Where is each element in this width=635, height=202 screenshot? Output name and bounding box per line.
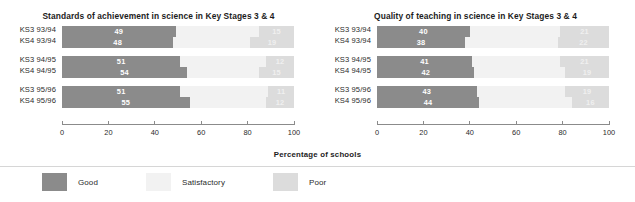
bar-row: KS4 94/954219 bbox=[377, 67, 609, 78]
bar-row: KS3 95/965111 bbox=[62, 86, 294, 97]
x-axis-tick-label: 0 bbox=[375, 128, 379, 137]
bar-segment-poor: 12 bbox=[266, 56, 294, 67]
bar-segment-poor: 15 bbox=[259, 67, 294, 78]
chart-title-standards: Standards of achievement in science in K… bbox=[0, 11, 317, 21]
x-axis-tick bbox=[154, 121, 155, 125]
x-axis-tick bbox=[247, 121, 248, 125]
x-axis-tick-label: 20 bbox=[104, 128, 112, 137]
bar-segment-poor: 21 bbox=[560, 26, 609, 37]
bar-segment-good: 55 bbox=[62, 97, 190, 108]
bar-row: KS3 93/944021 bbox=[377, 26, 609, 37]
x-axis-tick-label: 80 bbox=[243, 128, 251, 137]
bar-segment-good: 54 bbox=[62, 67, 187, 78]
plot-area-quality: KS3 93/944021KS4 93/943822KS3 94/954121K… bbox=[377, 26, 609, 125]
bar-segment-satisfactory bbox=[180, 86, 268, 97]
bar-segment-poor: 19 bbox=[565, 86, 609, 97]
bar-segment-satisfactory bbox=[474, 67, 564, 78]
bar-segment-satisfactory bbox=[472, 56, 560, 67]
bar-segment-good: 38 bbox=[377, 37, 465, 48]
bar-segment-good: 51 bbox=[62, 86, 180, 97]
plot-area-standards: KS3 93/944915KS4 93/944819KS3 94/955112K… bbox=[62, 26, 294, 125]
bar-segment-good: 51 bbox=[62, 56, 180, 67]
x-axis-tick-label: 60 bbox=[197, 128, 205, 137]
bar-row-label: KS4 93/94 bbox=[20, 36, 56, 45]
bar-segment-good: 48 bbox=[62, 37, 173, 48]
x-axis-tick bbox=[377, 121, 378, 125]
bar-row-label: KS3 93/94 bbox=[335, 25, 371, 34]
x-axis-tick-label: 40 bbox=[466, 128, 474, 137]
bar-row-label: KS4 93/94 bbox=[335, 36, 371, 45]
bar-segment-good: 42 bbox=[377, 67, 474, 78]
bar-segment-poor: 21 bbox=[560, 56, 609, 67]
bar-row-label: KS4 95/96 bbox=[20, 96, 56, 105]
bar-segment-satisfactory bbox=[470, 26, 560, 37]
x-axis-tick bbox=[108, 121, 109, 125]
bar-segment-poor: 12 bbox=[266, 97, 294, 108]
bar-row: KS4 94/955415 bbox=[62, 67, 294, 78]
legend-item-good: Good bbox=[42, 173, 98, 191]
x-axis-tick-label: 100 bbox=[603, 128, 615, 137]
bar-segment-satisfactory bbox=[479, 97, 572, 108]
x-axis-tick-label: 100 bbox=[288, 128, 300, 137]
legend-item-satisfactory: Satisfactory bbox=[146, 173, 225, 191]
x-axis-tick bbox=[423, 121, 424, 125]
x-axis-tick bbox=[562, 121, 563, 125]
bar-segment-poor: 15 bbox=[259, 26, 294, 37]
bar-row: KS3 94/954121 bbox=[377, 56, 609, 67]
bar-segment-poor: 19 bbox=[250, 37, 294, 48]
legend-divider bbox=[0, 166, 635, 167]
bar-segment-satisfactory bbox=[190, 97, 267, 108]
bar-segment-good: 49 bbox=[62, 26, 176, 37]
x-axis-tick bbox=[294, 121, 295, 125]
legend-label-satisfactory: Satisfactory bbox=[182, 178, 225, 187]
bar-row-label: KS3 93/94 bbox=[20, 25, 56, 34]
bar-row: KS4 95/965512 bbox=[62, 97, 294, 108]
bar-segment-poor: 11 bbox=[268, 86, 294, 97]
x-axis-tick-label: 80 bbox=[558, 128, 566, 137]
x-axis-tick bbox=[469, 121, 470, 125]
legend: GoodSatisfactoryPoor bbox=[42, 173, 374, 191]
bar-row-label: KS4 94/95 bbox=[335, 66, 371, 75]
legend-swatch-satisfactory bbox=[146, 173, 171, 191]
bar-segment-poor: 19 bbox=[565, 67, 609, 78]
legend-swatch-good bbox=[42, 173, 67, 191]
bar-row-label: KS3 95/96 bbox=[20, 85, 56, 94]
legend-item-poor: Poor bbox=[273, 173, 326, 191]
bar-segment-satisfactory bbox=[176, 26, 260, 37]
bar-row-label: KS3 95/96 bbox=[335, 85, 371, 94]
bar-segment-good: 43 bbox=[377, 86, 477, 97]
axis-caption: Percentage of schools bbox=[0, 150, 635, 159]
bar-row-label: KS3 94/95 bbox=[20, 55, 56, 64]
bar-row: KS4 93/944819 bbox=[62, 37, 294, 48]
x-axis-tick bbox=[516, 121, 517, 125]
x-axis-line bbox=[377, 124, 609, 125]
bar-segment-poor: 22 bbox=[558, 37, 609, 48]
x-axis-line bbox=[62, 124, 294, 125]
bar-row: KS3 94/955112 bbox=[62, 56, 294, 67]
bar-row: KS3 95/964319 bbox=[377, 86, 609, 97]
bar-segment-good: 40 bbox=[377, 26, 470, 37]
legend-label-good: Good bbox=[78, 178, 98, 187]
legend-swatch-poor bbox=[273, 173, 298, 191]
bar-segment-good: 41 bbox=[377, 56, 472, 67]
bar-segment-satisfactory bbox=[477, 86, 565, 97]
bar-segment-satisfactory bbox=[173, 37, 250, 48]
bar-row: KS4 93/943822 bbox=[377, 37, 609, 48]
bar-row-label: KS4 95/96 bbox=[335, 96, 371, 105]
charts-row: Standards of achievement in science in K… bbox=[0, 0, 635, 145]
x-axis-tick-label: 0 bbox=[60, 128, 64, 137]
bar-row: KS3 93/944915 bbox=[62, 26, 294, 37]
legend-label-poor: Poor bbox=[309, 178, 326, 187]
bar-segment-satisfactory bbox=[187, 67, 259, 78]
bar-row-label: KS3 94/95 bbox=[335, 55, 371, 64]
x-axis-tick bbox=[62, 121, 63, 125]
bar-segment-satisfactory bbox=[180, 56, 266, 67]
chart-panel-standards: Standards of achievement in science in K… bbox=[0, 0, 317, 145]
chart-title-quality: Quality of teaching in science in Key St… bbox=[317, 11, 634, 21]
x-axis-tick-label: 60 bbox=[512, 128, 520, 137]
x-axis-tick bbox=[201, 121, 202, 125]
bar-row-label: KS4 94/95 bbox=[20, 66, 56, 75]
bar-segment-satisfactory bbox=[465, 37, 558, 48]
x-axis-tick-label: 20 bbox=[419, 128, 427, 137]
bar-row: KS4 95/964416 bbox=[377, 97, 609, 108]
